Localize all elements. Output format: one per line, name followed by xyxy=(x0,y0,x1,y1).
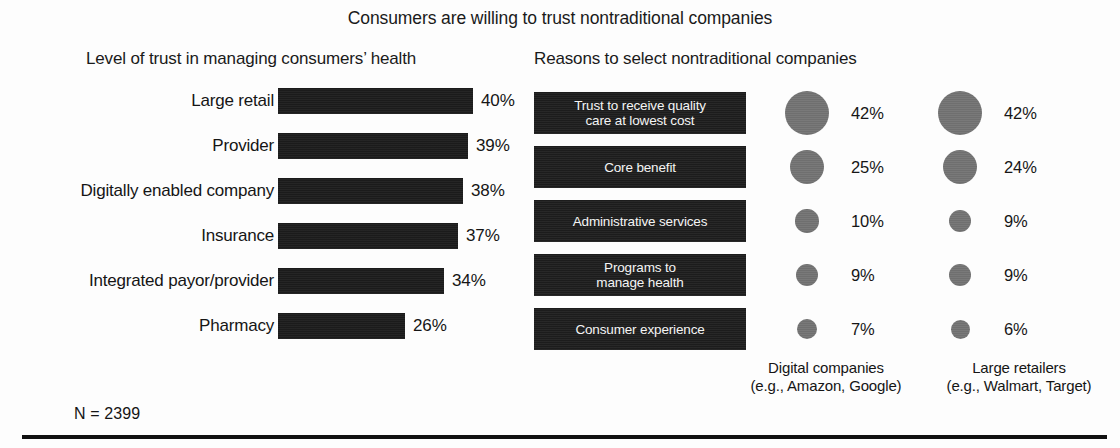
bubble-cell xyxy=(930,92,990,134)
reasons-bubble-chart: Trust to receive quality care at lowest … xyxy=(0,88,1120,348)
bubble-value-label: 42% xyxy=(851,104,884,123)
bubble-value-label: 42% xyxy=(1004,104,1037,123)
bottom-divider xyxy=(22,435,1107,439)
chart-figure: Consumers are willing to trust nontradit… xyxy=(0,0,1120,448)
legend-large-retailers: Large retailers (e.g., Walmart, Target) xyxy=(921,359,1117,395)
bubble-cell xyxy=(930,146,990,188)
reason-label-box: Consumer experience xyxy=(534,308,746,350)
reason-row: Programs to manage health9%9% xyxy=(0,254,1120,296)
bubble-marker xyxy=(797,319,817,339)
bubble-marker xyxy=(795,209,818,232)
reason-label-box: Core benefit xyxy=(534,146,746,188)
bubble-value-label: 9% xyxy=(1004,266,1028,285)
reason-label-box: Trust to receive quality care at lowest … xyxy=(534,92,746,134)
bubble-value-label: 25% xyxy=(851,158,884,177)
bubble-marker xyxy=(949,210,971,232)
bubble-cell xyxy=(777,308,837,350)
bubble-value-label: 24% xyxy=(1004,158,1037,177)
bubble-value-label: 9% xyxy=(851,266,875,285)
reason-label-text: Programs to manage health xyxy=(596,260,683,290)
bubble-value-label: 10% xyxy=(851,212,884,231)
left-panel-title: Level of trust in managing consumers’ he… xyxy=(86,49,416,69)
reason-label-text: Trust to receive quality care at lowest … xyxy=(574,98,706,128)
bubble-value-label: 9% xyxy=(1004,212,1028,231)
bubble-marker xyxy=(943,150,977,184)
legend-digital-companies: Digital companies (e.g., Amazon, Google) xyxy=(731,359,921,395)
bubble-marker xyxy=(949,264,971,286)
bubble-marker xyxy=(796,264,818,286)
bubble-cell xyxy=(777,146,837,188)
bubble-marker xyxy=(951,320,970,339)
reason-row: Core benefit25%24% xyxy=(0,146,1120,188)
bubble-value-label: 7% xyxy=(851,320,875,339)
bubble-cell xyxy=(930,254,990,296)
reason-label-box: Administrative services xyxy=(534,200,746,242)
bubble-cell xyxy=(777,254,837,296)
reason-row: Trust to receive quality care at lowest … xyxy=(0,92,1120,134)
bubble-cell xyxy=(777,92,837,134)
reason-label-text: Consumer experience xyxy=(575,322,704,337)
bubble-marker xyxy=(938,91,982,135)
bubble-cell xyxy=(777,200,837,242)
figure-title: Consumers are willing to trust nontradit… xyxy=(0,8,1120,29)
bubble-cell xyxy=(930,308,990,350)
reason-row: Administrative services10%9% xyxy=(0,200,1120,242)
reason-label-text: Core benefit xyxy=(604,160,676,175)
sample-size-note: N = 2399 xyxy=(74,405,140,423)
reason-label-text: Administrative services xyxy=(573,214,708,229)
bubble-cell xyxy=(930,200,990,242)
right-panel-title: Reasons to select nontraditional compani… xyxy=(534,49,857,69)
reason-row: Consumer experience7%6% xyxy=(0,308,1120,350)
reason-label-box: Programs to manage health xyxy=(534,254,746,296)
bubble-marker xyxy=(785,91,829,135)
bubble-marker xyxy=(790,150,825,185)
bubble-value-label: 6% xyxy=(1004,320,1028,339)
